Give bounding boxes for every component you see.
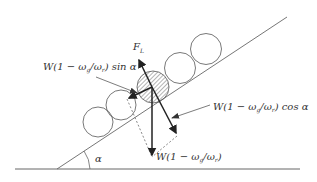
sphere-2 [106, 90, 136, 120]
dashed-line-sin [127, 99, 152, 157]
hatched-particle [137, 71, 169, 103]
sphere-1 [83, 107, 113, 137]
angle-label: α [95, 153, 102, 164]
cos-component-label: W(1 − ωg/ωr) cos α [213, 101, 309, 114]
cos-leader-line [172, 105, 210, 118]
lift-force-label: FL [132, 41, 144, 54]
force-diagram: FL W(1 − ωg/ωr) sin α W(1 − ωg/ωr) cos α… [0, 0, 317, 182]
weight-label: W(1 − ωg/ωr) [156, 151, 222, 164]
sin-component-label: W(1 − ωg/ωr) sin α [43, 61, 137, 74]
sphere-5 [191, 34, 222, 65]
incline-line [57, 17, 287, 169]
sphere-4 [165, 53, 196, 84]
angle-arc [84, 151, 90, 169]
